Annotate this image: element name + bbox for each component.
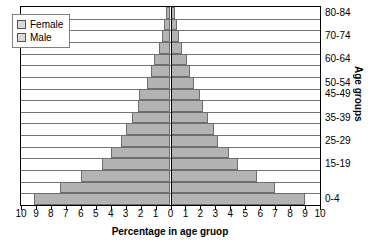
x-tick-label: 9 bbox=[298, 208, 312, 219]
x-tick-label: 3 bbox=[208, 208, 222, 219]
x-tick-label: 8 bbox=[44, 208, 58, 219]
x-tick-label: 7 bbox=[59, 208, 73, 219]
x-tick-label: 3 bbox=[119, 208, 133, 219]
x-tick-label: 4 bbox=[223, 208, 237, 219]
x-tick-label: 7 bbox=[268, 208, 282, 219]
x-tick-label: 2 bbox=[193, 208, 207, 219]
y-tick-label: 15-19 bbox=[325, 158, 351, 169]
y-tick-label: 0-4 bbox=[325, 193, 339, 204]
y-tick-label: 45-49 bbox=[325, 88, 351, 99]
zero-axis-line bbox=[171, 7, 172, 205]
legend-label-male: Male bbox=[30, 31, 52, 44]
x-tick-label: 10 bbox=[313, 208, 327, 219]
x-tick-label: 6 bbox=[253, 208, 267, 219]
x-tick-label: 1 bbox=[149, 208, 163, 219]
y-tick-label: 80-84 bbox=[325, 7, 351, 18]
x-tick-label: 5 bbox=[89, 208, 103, 219]
x-tick-label: 4 bbox=[104, 208, 118, 219]
x-tick-label: 5 bbox=[238, 208, 252, 219]
x-tick-label: 8 bbox=[283, 208, 297, 219]
legend-item-male: Male bbox=[17, 31, 63, 44]
legend-swatch-female bbox=[17, 20, 26, 29]
chart-legend: Female Male bbox=[12, 14, 70, 48]
x-tick-label: 10 bbox=[14, 208, 28, 219]
y-axis-title: Age groups bbox=[353, 66, 364, 122]
x-tick-label: 9 bbox=[29, 208, 43, 219]
y-tick-label: 50-54 bbox=[325, 77, 351, 88]
y-tick-label: 70-74 bbox=[325, 30, 351, 41]
x-axis-title: Percentage in age gruop bbox=[0, 226, 340, 237]
x-tick-label: 6 bbox=[74, 208, 88, 219]
x-tick-label: 2 bbox=[134, 208, 148, 219]
legend-item-female: Female bbox=[17, 18, 63, 31]
x-tick-label: 1 bbox=[178, 208, 192, 219]
legend-label-female: Female bbox=[30, 18, 63, 31]
x-tick-label: 0 bbox=[164, 208, 178, 219]
y-tick-label: 25-29 bbox=[325, 135, 351, 146]
legend-swatch-male bbox=[17, 33, 26, 42]
y-tick-label: 35-39 bbox=[325, 112, 351, 123]
population-pyramid-chart: 10987654321012345678910 0-415-1925-2935-… bbox=[0, 0, 391, 246]
y-tick-label: 60-64 bbox=[325, 53, 351, 64]
